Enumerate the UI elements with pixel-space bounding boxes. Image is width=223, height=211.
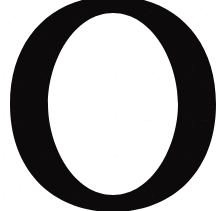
letter-o-glyph [0, 0, 223, 211]
glyph-canvas: O [0, 0, 223, 211]
